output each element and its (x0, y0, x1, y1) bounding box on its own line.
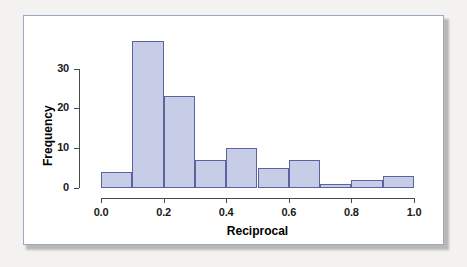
x-axis-tick-label: 1.0 (394, 206, 434, 218)
y-axis-tick (74, 148, 79, 149)
histogram-bar (320, 184, 351, 188)
histogram-bar (383, 176, 414, 188)
histogram-bar (289, 160, 320, 188)
x-axis-tick (414, 198, 415, 203)
x-axis-tick (101, 198, 102, 203)
histogram-bar (101, 172, 132, 188)
y-axis-line (79, 69, 80, 188)
x-axis-tick (351, 198, 352, 203)
histogram-bar (132, 41, 163, 188)
x-axis-tick-label: 0.0 (81, 206, 121, 218)
figure-card: 0.00.20.40.60.81.00102030ReciprocalFrequ… (23, 15, 444, 245)
x-axis-tick (164, 198, 165, 203)
y-axis-tick-label: 30 (29, 62, 69, 74)
y-axis-tick (74, 69, 79, 70)
x-axis-tick (226, 198, 227, 203)
histogram-bar (351, 180, 382, 188)
x-axis-tick (289, 198, 290, 203)
x-axis-title: Reciprocal (178, 224, 338, 238)
x-axis-tick-label: 0.8 (331, 206, 371, 218)
y-axis-title: Frequency (41, 105, 55, 166)
x-axis-tick-label: 0.6 (269, 206, 309, 218)
x-axis-tick-label: 0.2 (144, 206, 184, 218)
page-root: 0.00.20.40.60.81.00102030ReciprocalFrequ… (0, 0, 467, 267)
x-axis-tick-label: 0.4 (206, 206, 246, 218)
y-axis-tick (74, 108, 79, 109)
histogram-bar (258, 168, 289, 188)
histogram-bar (164, 96, 195, 188)
y-axis-tick-label: 0 (29, 181, 69, 193)
x-axis-line (101, 198, 414, 199)
histogram-plot: 0.00.20.40.60.81.00102030ReciprocalFrequ… (24, 16, 445, 246)
y-axis-tick (74, 188, 79, 189)
histogram-bar (226, 148, 257, 188)
histogram-bar (195, 160, 226, 188)
